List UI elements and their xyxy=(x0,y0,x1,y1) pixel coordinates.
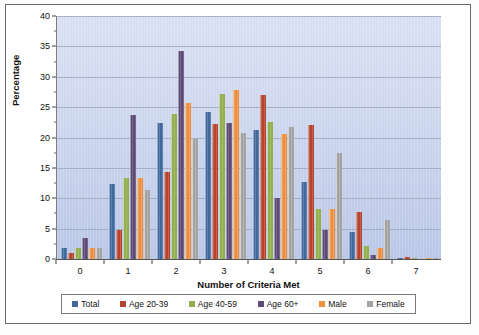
legend-label: Total xyxy=(81,299,99,309)
chart-bar xyxy=(75,248,81,259)
chart-bar xyxy=(123,178,129,259)
chart-bar xyxy=(109,184,115,259)
chart-bar xyxy=(411,258,417,259)
chart-bar xyxy=(425,258,431,259)
chart-bar xyxy=(116,230,122,259)
chart-bar xyxy=(164,172,170,259)
x-axis-title: Number of Criteria Met xyxy=(56,279,441,290)
chart-bar xyxy=(267,122,273,259)
bar-cluster xyxy=(153,16,201,259)
x-axis-tick-label: 7 xyxy=(413,266,418,276)
y-axis-tick-mark xyxy=(52,228,56,229)
chart-bar xyxy=(233,90,239,259)
y-axis-minor-tick xyxy=(54,122,56,123)
x-axis-tick-label: 3 xyxy=(221,266,226,276)
chart-bar xyxy=(349,232,355,259)
chart-bar xyxy=(329,209,335,259)
legend-swatch-icon xyxy=(72,301,78,307)
chart-bar xyxy=(370,255,376,259)
y-axis-minor-tick xyxy=(54,183,56,184)
chart-bar xyxy=(205,112,211,259)
chart-bar xyxy=(253,130,259,259)
x-axis-tick-mark xyxy=(56,260,57,264)
legend-item[interactable]: Female xyxy=(367,299,404,309)
x-axis-tick-label: 5 xyxy=(317,266,322,276)
chart-bar xyxy=(178,51,184,259)
bar-cluster xyxy=(345,16,393,259)
chart-bar xyxy=(137,178,143,259)
chart-figure: Percentage 0510152025303540 01234567 Num… xyxy=(0,0,479,335)
legend-item[interactable]: Total xyxy=(72,299,99,309)
chart-bar xyxy=(260,95,266,259)
chart-bar xyxy=(61,248,67,259)
chart-bar xyxy=(377,248,383,259)
legend-swatch-icon xyxy=(319,301,325,307)
bar-cluster xyxy=(297,16,345,259)
x-axis-tick-label: 0 xyxy=(77,266,82,276)
y-axis-tick-mark xyxy=(52,76,56,77)
x-axis-tick-label: 1 xyxy=(125,266,130,276)
y-axis-minor-tick xyxy=(54,243,56,244)
legend-swatch-icon xyxy=(120,301,126,307)
chart-bar xyxy=(192,139,198,259)
legend-label: Female xyxy=(376,299,404,309)
y-axis-minor-tick xyxy=(54,91,56,92)
chart-bar xyxy=(96,248,102,259)
chart-bar xyxy=(288,127,294,259)
chart-legend: TotalAge 20-39Age 40-59Age 60+MaleFemale xyxy=(61,294,416,314)
chart-bar xyxy=(144,190,150,259)
chart-bar xyxy=(315,209,321,259)
chart-bar xyxy=(240,133,246,259)
bar-cluster xyxy=(57,16,105,259)
bar-cluster xyxy=(201,16,249,259)
legend-label: Age 40-59 xyxy=(198,299,237,309)
legend-swatch-icon xyxy=(367,301,373,307)
chart-bar xyxy=(336,153,342,259)
y-axis-tick-mark xyxy=(52,16,56,17)
plot-area xyxy=(56,16,441,260)
chart-bar xyxy=(281,134,287,259)
chart-bar xyxy=(384,220,390,259)
y-axis-minor-tick xyxy=(54,61,56,62)
y-axis-tick-mark xyxy=(52,107,56,108)
bar-cluster xyxy=(393,16,441,259)
x-axis-tick-mark xyxy=(296,260,297,264)
legend-item[interactable]: Age 60+ xyxy=(258,299,299,309)
x-axis-tick-mark xyxy=(344,260,345,264)
x-axis-tick-mark xyxy=(200,260,201,264)
chart-bar xyxy=(322,230,328,259)
x-axis-tick-mark xyxy=(104,260,105,264)
chart-bar xyxy=(82,238,88,259)
y-axis-tick-mark xyxy=(52,198,56,199)
chart-bar xyxy=(68,253,74,259)
chart-bar xyxy=(226,123,232,259)
plot-wrapper: 0510152025303540 01234567 xyxy=(56,16,441,260)
y-axis-minor-tick xyxy=(54,213,56,214)
y-axis-tick-mark xyxy=(52,137,56,138)
y-axis-minor-tick xyxy=(54,152,56,153)
chart-bar xyxy=(301,182,307,259)
bar-cluster xyxy=(105,16,153,259)
chart-bar xyxy=(157,123,163,259)
chart-bar xyxy=(130,115,136,259)
legend-item[interactable]: Age 40-59 xyxy=(189,299,237,309)
legend-label: Male xyxy=(328,299,346,309)
x-axis-tick-mark xyxy=(392,260,393,264)
chart-bar xyxy=(308,125,314,259)
y-axis-tick-mark xyxy=(52,167,56,168)
chart-bar xyxy=(219,94,225,259)
y-axis-minor-tick xyxy=(54,31,56,32)
legend-swatch-icon xyxy=(258,301,264,307)
x-axis-tick-mark xyxy=(152,260,153,264)
x-axis-tick-label: 4 xyxy=(269,266,274,276)
chart-bar xyxy=(397,258,403,259)
legend-item[interactable]: Male xyxy=(319,299,346,309)
bar-cluster xyxy=(249,16,297,259)
x-axis-tick-mark xyxy=(248,260,249,264)
legend-label: Age 20-39 xyxy=(129,299,168,309)
x-axis-tick-label: 2 xyxy=(173,266,178,276)
legend-label: Age 60+ xyxy=(267,299,299,309)
legend-item[interactable]: Age 20-39 xyxy=(120,299,168,309)
chart-bar xyxy=(185,103,191,259)
chart-bar xyxy=(171,114,177,259)
